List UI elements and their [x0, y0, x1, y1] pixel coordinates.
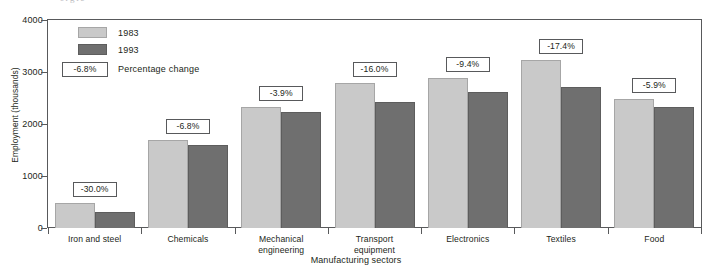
percentage-change-callout-5: -17.4%: [539, 39, 583, 54]
bar-chart-figure: ergic Employment (thousands) 01000200030…: [0, 0, 712, 267]
y-tick-label-0: 0: [3, 223, 43, 233]
x-tick-mark-edge-7: [701, 228, 702, 234]
x-category-label-line: Iron and steel: [48, 234, 141, 245]
legend-percentage-sample: -6.8%: [62, 62, 108, 77]
y-tick-label-2000: 2000: [3, 119, 43, 129]
x-category-label-line: Mechanical: [235, 234, 328, 245]
x-axis-title: Manufacturing sectors: [0, 255, 712, 265]
bar-1983-0: [55, 203, 95, 228]
x-category-label-1: Chemicals: [141, 234, 234, 245]
bar-1983-6: [614, 99, 654, 228]
x-category-label-6: Food: [608, 234, 701, 245]
legend-swatch-1993: [78, 44, 107, 55]
legend-label-1993: 1993: [118, 45, 139, 55]
legend-item-percentage-change: -6.8% Percentage change: [62, 60, 199, 78]
x-category-label-line: Transport: [328, 234, 421, 245]
x-category-label-2: Mechanicalengineering: [235, 234, 328, 256]
y-tick-label-3000: 3000: [3, 67, 43, 77]
x-category-label-0: Iron and steel: [48, 234, 141, 245]
legend-item-1993: 1993: [78, 41, 199, 58]
bar-1983-4: [428, 78, 468, 228]
percentage-change-callout-3: -16.0%: [353, 62, 397, 77]
percentage-change-callout-4: -9.4%: [446, 57, 490, 72]
legend-item-1983: 1983: [78, 24, 199, 41]
x-category-label-line: Food: [608, 234, 701, 245]
bar-1993-5: [561, 87, 601, 228]
y-tick-label-1000: 1000: [3, 171, 43, 181]
legend-label-1983: 1983: [118, 28, 139, 38]
bar-1983-5: [521, 60, 561, 228]
x-category-label-5: Textiles: [514, 234, 607, 245]
y-tick-mark-0: [41, 228, 47, 229]
legend-percentage-label: Percentage change: [118, 64, 199, 74]
bar-1993-2: [281, 112, 321, 228]
legend: 1983 1993 -6.8% Percentage change: [78, 24, 199, 78]
percentage-change-callout-2: -3.9%: [259, 86, 303, 101]
x-category-label-line: Textiles: [514, 234, 607, 245]
percentage-change-callout-0: -30.0%: [73, 182, 117, 197]
bar-1993-6: [654, 107, 694, 228]
y-tick-label-4000: 4000: [3, 15, 43, 25]
bar-1983-2: [241, 107, 281, 228]
cropped-text: ergic: [60, 0, 86, 3]
x-category-label-line: Electronics: [421, 234, 514, 245]
y-axis-title: Employment (thousands): [10, 15, 24, 215]
x-category-label-3: Transportequipment: [328, 234, 421, 256]
percentage-change-callout-6: -5.9%: [632, 78, 676, 93]
bar-1993-4: [468, 92, 508, 228]
bar-1993-0: [95, 212, 135, 228]
legend-swatch-1983: [78, 27, 107, 38]
x-category-label-line: Chemicals: [141, 234, 234, 245]
bar-1983-1: [148, 140, 188, 228]
percentage-change-callout-1: -6.8%: [166, 119, 210, 134]
bar-1993-3: [375, 102, 415, 228]
bar-1993-1: [188, 145, 228, 228]
cropped-text-sliver: ergic: [0, 0, 712, 8]
bar-1983-3: [335, 83, 375, 228]
x-category-label-4: Electronics: [421, 234, 514, 245]
